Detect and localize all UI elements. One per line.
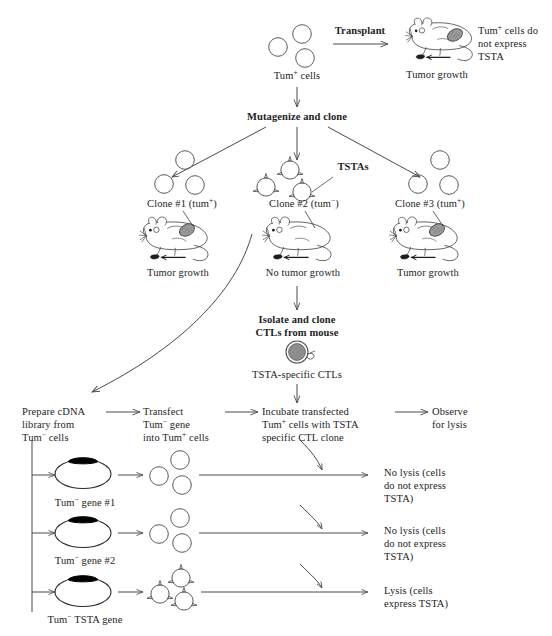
tstas-leader-line xyxy=(312,177,333,192)
clone1-leader-line xyxy=(183,211,193,226)
workflow-step-prepare-cdna: Prepare cDNAlibrary fromTum− cells xyxy=(22,405,85,444)
ctl-feed-curve-3 xyxy=(300,564,322,588)
tsta-flow-diagram: Tum+ cells Transplant Tumor growth Tum+ … xyxy=(0,0,552,636)
workflow-step-incubate: Incubate transfectedTum+ cells with TSTA… xyxy=(262,405,359,444)
clone-1-label: Clone #1 (tum+) xyxy=(147,197,217,210)
mouse-illustration-clone3 xyxy=(389,217,458,261)
clone3-cell-cluster xyxy=(409,151,459,195)
assay-row-2-gene-label: Tum− gene #2 xyxy=(55,554,115,567)
mouse-illustration-clone1 xyxy=(139,217,208,261)
plasmid-row-1 xyxy=(55,458,111,489)
transfected-cells-row-2 xyxy=(150,509,192,553)
tsta-specific-ctls-label: TSTA-specific CTLs xyxy=(252,368,342,381)
mutagenize-and-clone-label: Mutagenize and clone xyxy=(247,110,347,123)
assay-row-1-result: No lysis (cellsdo not expressTSTA) xyxy=(384,466,446,505)
assay-row-2-result: No lysis (cellsdo not expressTSTA) xyxy=(384,524,446,563)
plasmid-row-2 xyxy=(55,517,111,548)
clone-1-outcome-label: Tumor growth xyxy=(147,266,209,279)
assay-row-1-gene-label: Tum− gene #1 xyxy=(55,496,115,509)
tstas-label: TSTAs xyxy=(337,160,368,173)
isolate-clone-ctls-label: Isolate and cloneCTLs from mouse xyxy=(256,313,339,339)
clone2-tsta-cell-cluster xyxy=(253,156,315,201)
ctl-cell-illustration xyxy=(286,341,315,363)
branch-arrow-clone1 xyxy=(172,127,266,177)
transfected-cells-row-1 xyxy=(150,451,192,495)
transplant-label: Transplant xyxy=(335,24,385,37)
tumor-nodule-clone3 xyxy=(427,221,446,238)
assay-row-3-gene-label: Tum− TSTA gene xyxy=(48,613,123,626)
ctl-feed-curve-2 xyxy=(300,505,322,529)
workflow-step-transfect: TransfectTum− geneinto Tum+ cells xyxy=(143,405,209,444)
workflow-step-observe: Observefor lysis xyxy=(432,405,468,431)
clone-3-label: Clone #3 (tum+) xyxy=(395,197,465,210)
assay-row-3-result: Lysis (cellsexpress TSTA) xyxy=(384,584,448,610)
tumor-nodule-top xyxy=(445,26,464,43)
clone2-leader-line xyxy=(305,211,315,228)
clone3-leader-line xyxy=(433,211,443,226)
tumor-nodule-clone1 xyxy=(177,221,196,238)
tum-minus-source-curve xyxy=(92,234,252,392)
transfected-cells-row-3 xyxy=(147,564,197,610)
clone1-cell-cluster xyxy=(155,151,205,195)
tumor-growth-label-top: Tumor growth xyxy=(406,68,468,81)
tum-plus-cells-label: Tum+ cells xyxy=(274,69,321,82)
tum-plus-no-express-note: Tum+ cells donot expressTSTA xyxy=(478,24,538,63)
ctl-feed-curve-1 xyxy=(300,440,322,470)
clone-2-label: Clone #2 (tum−) xyxy=(269,197,339,210)
plasmid-row-3 xyxy=(55,576,111,607)
clone-2-outcome-label: No tumor growth xyxy=(266,266,340,279)
mouse-illustration-top xyxy=(405,18,472,61)
mouse-illustration-clone2 xyxy=(262,217,331,261)
top-tum-plus-cell-cluster xyxy=(269,25,315,68)
clone-3-outcome-label: Tumor growth xyxy=(397,266,459,279)
